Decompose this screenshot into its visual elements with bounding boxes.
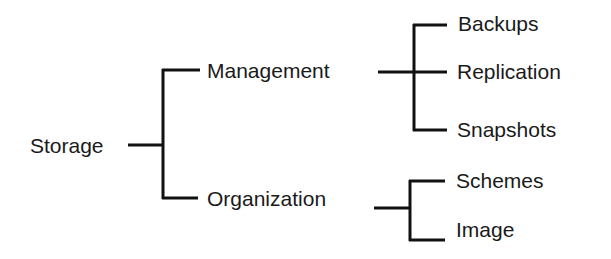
node-storage: Storage <box>30 134 104 157</box>
connector-organization <box>374 180 445 241</box>
connector-storage <box>128 69 200 199</box>
node-replication: Replication <box>457 60 561 83</box>
tree-diagram: Storage Management Backups Replication S… <box>0 0 611 259</box>
connector-management <box>378 24 447 131</box>
node-schemes: Schemes <box>456 169 544 192</box>
node-management: Management <box>207 59 330 82</box>
node-snapshots: Snapshots <box>457 118 556 141</box>
node-organization: Organization <box>207 187 326 210</box>
node-image: Image <box>456 218 514 241</box>
node-backups: Backups <box>458 12 539 35</box>
